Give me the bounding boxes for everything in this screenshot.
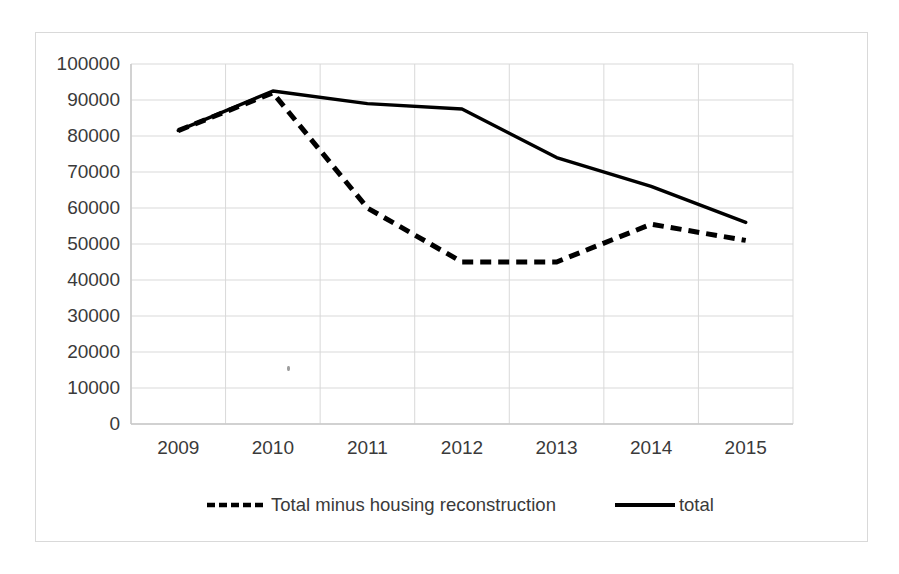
x-tick-label: 2010 (228, 438, 318, 457)
x-tick-label: 2013 (512, 438, 602, 457)
y-tick-label: 30000 (34, 306, 120, 325)
chart-container: 0100002000030000400005000060000700008000… (0, 0, 899, 574)
y-tick-label: 100000 (34, 54, 120, 73)
series-lines (178, 91, 745, 262)
x-tick-label: 2014 (606, 438, 696, 457)
y-tick-label: 60000 (34, 198, 120, 217)
series-line-solid (178, 91, 745, 222)
solid-line-swatch-icon (614, 500, 676, 510)
x-tick-label: 2012 (417, 438, 507, 457)
y-tick-label: 0 (34, 414, 120, 433)
y-tick-label: 10000 (34, 378, 120, 397)
y-tick-label: 50000 (34, 234, 120, 253)
legend-label-0: Total minus housing reconstruction (271, 496, 556, 515)
y-tick-label: 70000 (34, 162, 120, 181)
y-tick-label: 80000 (34, 126, 120, 145)
x-tick-label: 2011 (322, 438, 412, 457)
legend-label-1: total (679, 496, 714, 515)
y-tick-label: 90000 (34, 90, 120, 109)
x-tick-label: 2015 (701, 438, 791, 457)
series-line-dashed (178, 93, 745, 262)
x-tick-label: 2009 (133, 438, 223, 457)
horizontal-gridlines (131, 64, 793, 424)
legend-item-total: total (614, 496, 714, 515)
stray-mark-artifact (287, 366, 290, 371)
dashed-line-swatch-icon (206, 500, 268, 510)
y-tick-label: 20000 (34, 342, 120, 361)
legend-item-total-minus-housing-reconstruction: Total minus housing reconstruction (206, 496, 556, 515)
chart-legend: Total minus housing reconstruction total (150, 488, 770, 522)
y-tick-label: 40000 (34, 270, 120, 289)
